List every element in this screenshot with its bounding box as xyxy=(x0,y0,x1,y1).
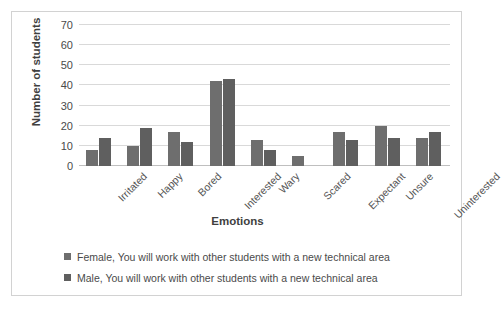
bar-group xyxy=(326,25,367,166)
x-tick-label-irritated: Irritated xyxy=(115,170,149,204)
x-tick-label-wary: Wary xyxy=(276,170,302,196)
bar[interactable] xyxy=(140,128,152,166)
bar[interactable] xyxy=(210,81,222,166)
bar[interactable] xyxy=(416,138,428,166)
y-tick-label-40: 40 xyxy=(47,79,73,91)
y-tick-label-0: 0 xyxy=(47,160,73,172)
bar-group xyxy=(161,25,202,166)
x-tick-label-expectant: Expectant xyxy=(366,170,408,212)
bar[interactable] xyxy=(181,142,193,166)
bar[interactable] xyxy=(86,150,98,166)
x-tick-label-uninterested: Uninterested xyxy=(452,170,502,221)
bar[interactable] xyxy=(333,132,345,166)
bar[interactable] xyxy=(375,126,387,166)
y-tick-label-50: 50 xyxy=(47,59,73,71)
x-tick-label-bored: Bored xyxy=(195,170,223,198)
bar-group xyxy=(203,25,244,166)
bar-group xyxy=(285,25,326,166)
x-tick-label-happy: Happy xyxy=(155,170,185,200)
bar-group xyxy=(120,25,161,166)
bars-layer xyxy=(79,25,450,166)
chart-legend: Female, You will work with other student… xyxy=(12,246,463,288)
y-axis-tick-labels: 706050403020100 xyxy=(48,25,76,166)
legend-swatch-icon xyxy=(64,253,71,260)
bar-group xyxy=(409,25,450,166)
bar-group xyxy=(79,25,120,166)
x-tick-label-scared: Scared xyxy=(320,170,352,202)
bar[interactable] xyxy=(388,138,400,166)
bar[interactable] xyxy=(223,79,235,166)
x-tick-label-unsure: Unsure xyxy=(403,170,435,202)
y-tick-label-30: 30 xyxy=(47,100,73,112)
bar[interactable] xyxy=(127,146,139,166)
plot-area xyxy=(79,25,450,166)
legend-item[interactable]: Female, You will work with other student… xyxy=(12,246,463,267)
y-tick-label-60: 60 xyxy=(47,39,73,51)
chart-card: Number of students 706050403020100 Irrit… xyxy=(11,11,462,296)
y-tick-label-20: 20 xyxy=(47,120,73,132)
bar[interactable] xyxy=(429,132,441,166)
bar[interactable] xyxy=(264,150,276,166)
bar-group xyxy=(368,25,409,166)
legend-swatch-icon xyxy=(64,274,71,281)
legend-label: Female, You will work with other student… xyxy=(77,251,390,263)
y-tick-label-10: 10 xyxy=(47,140,73,152)
y-tick-label-70: 70 xyxy=(47,19,73,31)
x-tick-label-interested: Interested xyxy=(242,170,284,212)
x-axis-title: Emotions xyxy=(12,215,463,227)
y-axis-title: Number of students xyxy=(30,7,46,137)
bar[interactable] xyxy=(251,140,263,166)
legend-item[interactable]: Male, You will work with other students … xyxy=(12,267,463,288)
bar[interactable] xyxy=(99,138,111,166)
bar[interactable] xyxy=(346,140,358,166)
bar[interactable] xyxy=(168,132,180,166)
bar[interactable] xyxy=(292,156,304,166)
legend-label: Male, You will work with other students … xyxy=(77,272,378,284)
bar-group xyxy=(244,25,285,166)
